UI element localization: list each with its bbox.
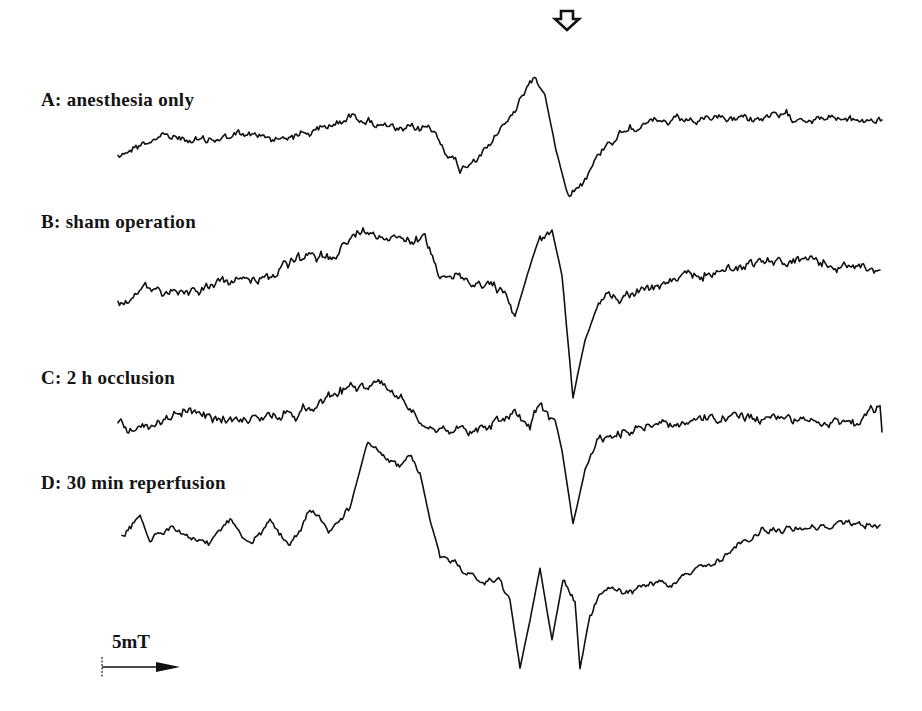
label-b: B: sham operation (41, 211, 196, 233)
label-d: D: 30 min reperfusion (41, 472, 226, 494)
trace-c (118, 380, 882, 524)
trace-d (122, 442, 880, 668)
scale-bar-label: 5mT (112, 631, 150, 653)
trace-a (118, 77, 882, 196)
down-arrow-icon (555, 11, 579, 30)
label-a: A: anesthesia only (41, 89, 194, 111)
label-c: C: 2 h occlusion (41, 367, 175, 389)
trace-b (118, 228, 880, 398)
scale-bar (102, 657, 180, 678)
arrow-right-icon (156, 662, 180, 672)
epr-spectra-figure: A: anesthesia only B: sham operation C: … (0, 0, 922, 711)
